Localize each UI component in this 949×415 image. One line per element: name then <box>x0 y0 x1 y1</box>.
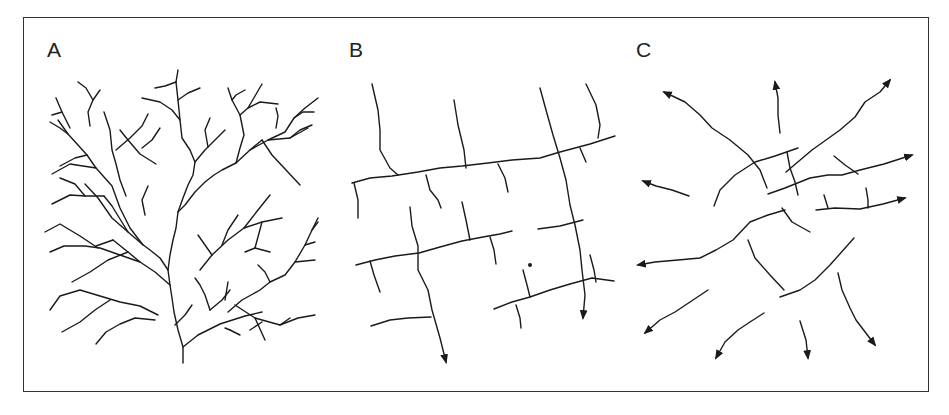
drainage-patterns-diagram <box>0 0 949 415</box>
panel-c-radial-network <box>638 80 912 358</box>
panel-a-dendritic-network <box>45 70 318 363</box>
panel-b-trellis-network <box>352 84 615 362</box>
